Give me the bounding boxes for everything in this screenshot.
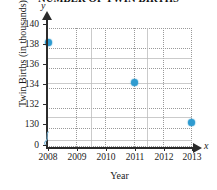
gridline-vertical [76,28,77,147]
gridline-vertical [105,28,106,147]
x-axis-title: Year [47,170,192,181]
x-axis-tick [48,147,49,151]
plot-area [47,28,192,147]
x-axis-tick [77,147,78,151]
x-axis-line [46,147,195,149]
scan-artifact-line [47,140,192,141]
x-axis-tick [106,147,107,151]
y-axis-tick [43,24,48,25]
x-axis-variable-label: x [204,140,208,151]
y-axis-tick [43,145,48,146]
y-axis-tick [43,84,48,85]
gridline-vertical [134,28,135,147]
y-axis-tick [43,64,48,65]
chart-title: NUMBER OF TWIN BIRTHS [0,0,217,4]
gridline-vertical [163,28,164,147]
gridline-vertical [191,28,192,147]
y-axis-tick-label: 0 [13,141,39,151]
gridline-horizontal [47,48,192,49]
x-axis-tick [164,147,165,151]
y-axis-variable-label: y [41,0,45,11]
gridline-horizontal [47,108,192,109]
gridline-horizontal [47,68,192,69]
chart-figure: NUMBER OF TWIN BIRTHS y x [0,0,217,190]
scan-artifact-line [47,117,192,118]
gridline-horizontal [47,128,192,129]
y-axis-arrow-icon [42,11,52,20]
x-axis-tick [192,147,193,151]
data-point[interactable] [188,119,195,126]
axis-break-icon [41,131,52,146]
y-axis-tick [43,124,48,125]
scan-artifact-line [47,83,192,84]
x-axis-tick [135,147,136,151]
scan-artifact-line [91,28,92,147]
y-axis-tick [43,104,48,105]
scan-artifact-line [47,58,192,59]
data-point[interactable] [131,79,138,86]
gridline-horizontal [47,28,192,29]
scan-artifact-line [147,28,148,147]
gridline-horizontal [47,88,192,89]
x-axis-tick-label: 2013 [175,152,209,162]
y-axis-title: Twin Births (in thousands) [17,0,28,124]
y-axis-tick [43,44,48,45]
